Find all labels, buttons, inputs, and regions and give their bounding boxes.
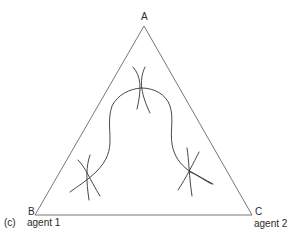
agent-1-label: agent 1 <box>27 218 60 228</box>
vertex-c-label: C <box>255 207 262 217</box>
crossing-marks-left-icon <box>78 155 100 200</box>
vertex-b-label: B <box>28 207 35 217</box>
simplex-triangle <box>35 26 252 215</box>
crossing-marks-top-icon <box>133 67 150 113</box>
contract-curve <box>70 88 213 192</box>
diagram-canvas <box>0 0 294 240</box>
crossing-marks-right-icon <box>178 148 212 196</box>
panel-label: (c) <box>4 218 16 228</box>
vertex-a-label: A <box>141 12 148 22</box>
edgeworth-simplex-diagram: A B C (c) agent 1 agent 2 <box>0 0 294 240</box>
agent-2-label: agent 2 <box>254 219 287 229</box>
